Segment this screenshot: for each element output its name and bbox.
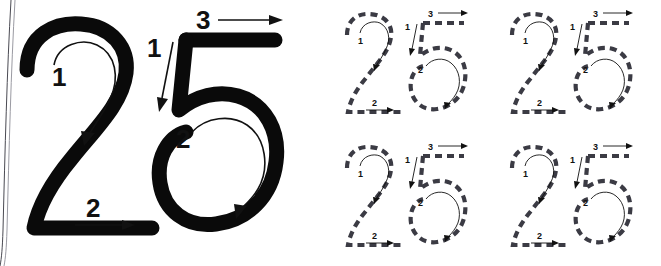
dashed-digit-2-step1-label: 1: [523, 169, 528, 179]
dashed-digit-2-step1-arrow: [525, 22, 554, 71]
dashed-digit-2-step1-label: 1: [358, 36, 363, 46]
dashed-digit-5-step2-label: 2: [418, 198, 423, 208]
big-digit-5-step2-label: 2: [176, 124, 190, 154]
practice-cell-svg: 1 2 1 3: [330, 133, 495, 266]
practice-cell-top-right[interactable]: 1 2 1 3: [495, 0, 660, 133]
dashed-digit-5-step1-arrow: [574, 24, 582, 56]
dashed-digit-2-step2-label: 2: [537, 231, 542, 241]
demonstration-svg: 1 2 1 3: [0, 0, 330, 266]
dashed-digit-5-step1-arrow: [409, 157, 417, 189]
big-digit-5-step1-label: 1: [147, 33, 161, 63]
practice-cell-svg: 1 2 1 3: [495, 0, 660, 133]
big-digit-2-step1-label: 1: [52, 62, 66, 92]
dashed-digit-2-step2-label: 2: [372, 231, 377, 241]
big-digit-5-step3-label: 3: [196, 5, 210, 35]
demonstration-panel: 1 2 1 3: [0, 0, 330, 266]
dashed-digit-5-step1-label: 1: [570, 22, 575, 32]
dashed-digit-2-step1-label: 1: [358, 169, 363, 179]
practice-grid: 1 2 1 3: [330, 0, 661, 266]
big-digit-2-step2-label: 2: [86, 193, 100, 223]
dashed-digit-5-step3-arrow: [438, 10, 468, 16]
practice-cell-svg: 1 2 1 3: [495, 133, 660, 266]
dashed-digit-5-step3-arrow: [438, 143, 468, 149]
practice-cell-top-left[interactable]: 1 2 1 3: [330, 0, 495, 133]
dashed-digit-5-step3-arrow: [603, 10, 633, 16]
dashed-digit-5-step3-label: 3: [428, 142, 433, 152]
dashed-digit-2-step2-label: 2: [537, 98, 542, 108]
dashed-digit-2-step1-arrow: [525, 155, 554, 204]
practice-cell-bottom-left[interactable]: 1 2 1 3: [330, 133, 495, 266]
dashed-digit-5-step2-label: 2: [583, 198, 588, 208]
dashed-digit-5-step1-label: 1: [405, 22, 410, 32]
dashed-digit-5-step3-label: 3: [593, 9, 598, 19]
dashed-digit-5-step3-label: 3: [593, 142, 598, 152]
practice-cell-bottom-right[interactable]: 1 2 1 3: [495, 133, 660, 266]
dashed-digit-2-step1-arrow: [360, 155, 389, 204]
big-digit-5-step3-arrow: [218, 15, 283, 25]
big-digit-2-step1-arrow: [54, 42, 115, 146]
practice-cell-svg: 1 2 1 3: [330, 0, 495, 133]
dashed-digit-5-step1-arrow: [409, 24, 417, 56]
worksheet-page: 1 2 1 3: [0, 0, 661, 266]
dashed-digit-5-step1-label: 1: [570, 155, 575, 165]
dashed-digit-2-step1-label: 1: [523, 36, 528, 46]
dashed-digit-5-step2-label: 2: [418, 65, 423, 75]
dashed-digit-2-step2-label: 2: [372, 98, 377, 108]
dashed-digit-5-step2-label: 2: [583, 65, 588, 75]
dashed-digit-5-step3-arrow: [603, 143, 633, 149]
dashed-digit-2-step1-arrow: [360, 22, 389, 71]
dashed-digit-5-step3-label: 3: [428, 9, 433, 19]
dashed-digit-5-step1-arrow: [574, 157, 582, 189]
dashed-digit-5-step1-label: 1: [405, 155, 410, 165]
